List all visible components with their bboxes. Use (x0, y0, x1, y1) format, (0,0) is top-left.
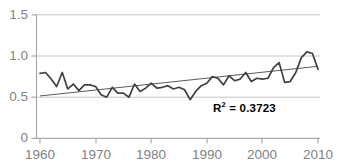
r-squared-symbol: R (213, 102, 222, 114)
y-tick-label-4: 0 (0, 131, 28, 145)
trend-line (40, 66, 318, 96)
x-tick-label-3: 1980 (124, 148, 178, 162)
y-axis-ticks (32, 15, 37, 139)
y-tick-label-1: 1.5 (0, 8, 28, 22)
x-tick-label-1: 1960 (13, 148, 67, 162)
x-tick-label-5: 2000 (235, 148, 289, 162)
x-tick-label-6: 2010 (291, 148, 338, 162)
x-tick-label-2: 1970 (69, 148, 123, 162)
r-squared-value: = 0.3723 (226, 102, 276, 114)
data-series-line (40, 52, 318, 100)
gridlines (36, 15, 320, 97)
x-axis-ticks (40, 138, 318, 143)
y-tick-label-3: 0.5 (0, 90, 28, 104)
r-squared-annotation: R2 = 0.3723 (213, 102, 276, 114)
axis-lines (36, 15, 320, 139)
x-tick-label-4: 1990 (180, 148, 234, 162)
y-tick-label-2: 1.0 (0, 49, 28, 63)
